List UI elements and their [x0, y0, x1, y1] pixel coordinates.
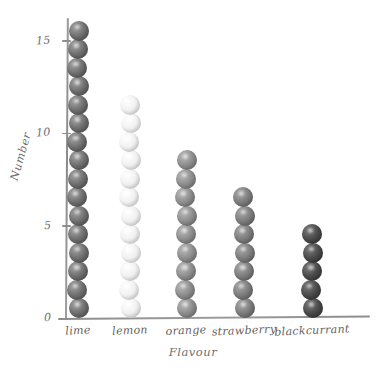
- x-axis-category-label-lime: lime: [65, 323, 91, 337]
- y-axis-tick-label: 10: [36, 126, 51, 140]
- data-sphere: [175, 187, 195, 207]
- data-sphere: [119, 187, 139, 207]
- data-sphere: [121, 298, 141, 318]
- data-sphere: [234, 261, 254, 281]
- data-sphere: [235, 206, 255, 226]
- data-sphere: [68, 169, 88, 189]
- x-axis-category-label-orange: orange: [165, 323, 206, 338]
- data-sphere: [67, 58, 87, 78]
- y-axis-tick: [62, 40, 71, 42]
- data-sphere: [68, 224, 88, 244]
- data-sphere: [303, 243, 323, 263]
- data-sphere: [302, 224, 322, 244]
- data-sphere: [233, 280, 253, 300]
- y-axis-tick-label: 15: [36, 33, 51, 47]
- data-sphere: [175, 280, 195, 300]
- data-sphere: [120, 95, 140, 115]
- data-sphere: [235, 298, 255, 318]
- data-sphere: [68, 261, 88, 281]
- data-sphere: [69, 113, 89, 133]
- data-sphere: [68, 95, 88, 115]
- data-sphere: [120, 261, 140, 281]
- data-sphere: [67, 132, 87, 152]
- data-sphere: [69, 76, 89, 96]
- dot-plot-chart: 051015 Number Flavour limelemonorangestr…: [0, 0, 386, 371]
- data-sphere: [119, 280, 139, 300]
- data-sphere: [176, 261, 196, 281]
- y-axis-tick-label: 5: [44, 218, 52, 231]
- data-sphere: [119, 132, 139, 152]
- data-sphere: [177, 243, 197, 263]
- data-sphere: [120, 169, 140, 189]
- x-axis-category-label-lemon: lemon: [112, 323, 148, 338]
- data-sphere: [234, 224, 254, 244]
- data-sphere: [121, 206, 141, 226]
- data-sphere: [69, 206, 89, 226]
- data-sphere: [302, 261, 322, 281]
- data-sphere: [121, 243, 141, 263]
- data-sphere: [176, 224, 196, 244]
- data-sphere: [121, 150, 141, 170]
- data-sphere: [303, 298, 323, 318]
- y-axis-tick: [62, 318, 71, 320]
- data-sphere: [176, 169, 196, 189]
- data-sphere: [233, 187, 253, 207]
- data-sphere: [301, 280, 321, 300]
- data-sphere: [68, 39, 88, 59]
- x-axis-title: Flavour: [0, 345, 386, 359]
- x-axis-category-label-strawberry: strawberry: [211, 323, 276, 339]
- data-sphere: [69, 243, 89, 263]
- data-sphere: [177, 298, 197, 318]
- data-sphere: [120, 224, 140, 244]
- data-sphere: [177, 150, 197, 170]
- data-sphere: [69, 21, 89, 41]
- data-sphere: [121, 113, 141, 133]
- y-axis-title: Number: [8, 131, 34, 182]
- x-axis-line: [58, 316, 370, 320]
- x-axis-category-label-blackcurrant: blackcurrant: [274, 322, 350, 338]
- data-sphere: [69, 298, 89, 318]
- data-sphere: [69, 150, 89, 170]
- data-sphere: [177, 206, 197, 226]
- data-sphere: [67, 187, 87, 207]
- data-sphere: [235, 243, 255, 263]
- y-axis-tick-label: 0: [44, 311, 52, 324]
- data-sphere: [67, 280, 87, 300]
